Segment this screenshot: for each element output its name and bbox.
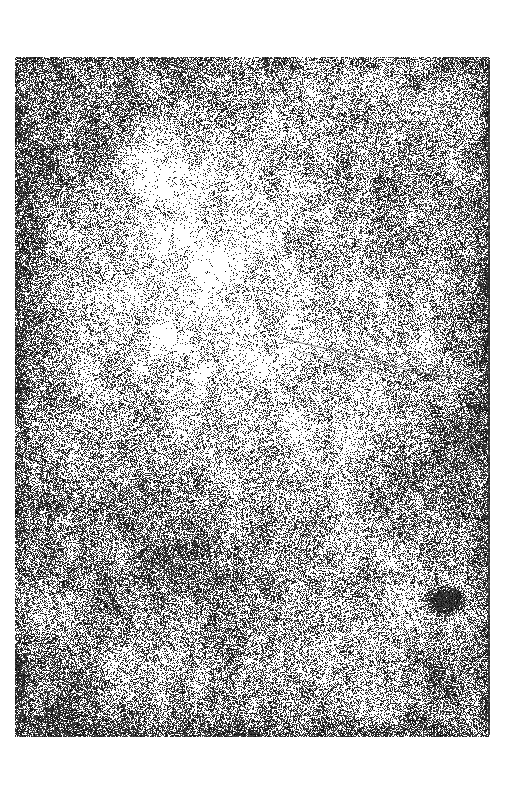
grain-canvas: [15, 57, 490, 737]
scan-page: Grunge Texture Scan: [0, 0, 505, 804]
texture-plate: [15, 57, 490, 737]
